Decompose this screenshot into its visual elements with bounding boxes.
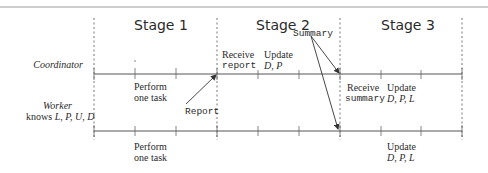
stage2-receive-report: Receive report <box>222 49 256 71</box>
stage3-receive-summary: Receive summary <box>345 82 385 104</box>
worker-knows-label: knows L, P, U, D <box>26 111 94 122</box>
stage1-perform-above: Perform one task <box>134 81 167 103</box>
stage3-worker-update: Update D, P, L <box>387 141 416 163</box>
report-arrow <box>186 75 216 104</box>
summary-message-label: Summary <box>293 28 333 39</box>
stage3-update: Update D, P, L <box>387 82 416 104</box>
stage-1-title: Stage 1 <box>134 17 188 33</box>
stage2-update: Update D, P <box>264 49 293 71</box>
stage1-perform-below: Perform one task <box>134 141 167 163</box>
coordinator-worker-timeline-diagram: Stage 1 Stage 2 Stage 3 Coordinator Work… <box>0 0 488 173</box>
report-message-label: Report <box>185 106 219 117</box>
stage-3-title: Stage 3 <box>381 17 435 33</box>
stage-boundaries <box>94 18 462 140</box>
worker-label: Worker <box>0 100 72 111</box>
coordinator-label: Coordinator <box>0 59 83 70</box>
summary-arrow-to-worker <box>311 36 338 129</box>
summary-arrow-to-coordinator <box>311 36 339 73</box>
